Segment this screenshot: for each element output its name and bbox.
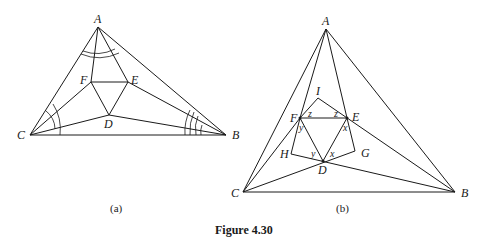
caption-b: (b) — [336, 202, 349, 215]
figure-title: Figure 4.30 — [215, 223, 273, 237]
label-a-a: A — [93, 12, 102, 26]
line-cf — [243, 118, 300, 192]
angle-arc-c-inner — [45, 110, 55, 129]
morley-triangle-def — [91, 82, 128, 115]
line-bh — [291, 154, 455, 192]
line-bi — [318, 98, 455, 192]
label-c-b: C — [231, 186, 240, 200]
figure-canvas: A C B F E D (a) A C B I F — [0, 0, 488, 243]
label-f-a: F — [79, 73, 88, 87]
label-b-a: B — [232, 128, 240, 142]
trisector-ae — [98, 27, 128, 82]
caption-a: (a) — [110, 202, 123, 215]
trisector-af — [91, 27, 98, 82]
angle-label-z-f: z — [307, 108, 312, 119]
angle-label-x-e: x — [342, 122, 348, 133]
label-a-b: A — [321, 14, 330, 28]
panel-b: A C B I F E H G D z z y y x x (b) — [231, 14, 469, 215]
label-d-b: D — [317, 163, 327, 177]
angle-label-y-f: y — [298, 122, 304, 133]
angle-label-y-d: y — [310, 148, 316, 159]
panel-a: A C B F E D (a) — [17, 12, 240, 215]
angle-arc-c-outer — [53, 104, 60, 135]
angle-arc-b-1 — [201, 125, 202, 135]
label-f-b: F — [289, 111, 298, 125]
label-e-a: E — [130, 73, 139, 87]
point-e-b — [346, 117, 349, 120]
line-cg — [243, 151, 355, 192]
point-f-b — [299, 117, 302, 120]
label-e-b: E — [351, 110, 360, 124]
label-h-b: H — [279, 147, 290, 161]
morley-triangle-def-b — [300, 118, 347, 161]
label-i-b: I — [315, 84, 321, 98]
label-b-b: B — [461, 186, 469, 200]
label-c-a: C — [17, 128, 26, 142]
angle-label-x-d: x — [329, 148, 335, 159]
angle-label-z-e: z — [333, 108, 338, 119]
label-d-a: D — [103, 117, 113, 131]
label-g-b: G — [361, 146, 370, 160]
